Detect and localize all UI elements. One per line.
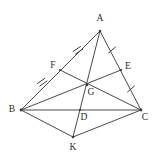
geometry-canvas: A B C D E F G K xyxy=(0,0,155,157)
vertex-dot-B xyxy=(20,109,23,112)
vertex-label-D: D xyxy=(81,112,88,122)
vertex-dot-D xyxy=(79,109,81,111)
tick-AF-marks xyxy=(73,47,83,55)
vertex-dot-A xyxy=(99,30,102,33)
vertex-label-A: A xyxy=(97,13,104,23)
vertex-label-K: K xyxy=(70,142,77,152)
vertex-label-E: E xyxy=(125,61,131,71)
vertex-dot-C xyxy=(140,109,143,112)
vertex-label-B: B xyxy=(9,104,15,114)
vertex-label-C: C xyxy=(142,112,148,122)
median-BE-line xyxy=(21,70,121,110)
segment-BK-line xyxy=(21,110,73,137)
vertex-label-F: F xyxy=(50,60,55,70)
vertex-dot-E xyxy=(120,69,122,71)
vertex-dot-G xyxy=(86,84,88,86)
vertex-dot-F xyxy=(59,69,61,71)
vertex-label-G: G xyxy=(88,87,95,97)
vertex-dot-K xyxy=(72,136,75,139)
geometry-figure: A B C D E F G K xyxy=(0,0,155,157)
